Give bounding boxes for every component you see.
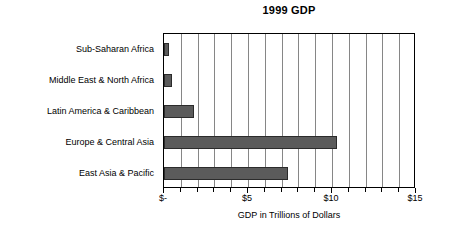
bar-slot [164,103,414,121]
bar [164,43,169,56]
x-tick-label: $15 [407,193,422,203]
x-tick-label: $10 [323,193,338,203]
x-tick-label: $- [159,193,167,203]
bar-slot [164,165,414,183]
axis-tick-minor [381,188,382,192]
bar [164,167,288,180]
axis-tick-minor [180,188,181,192]
category-axis-labels: Sub-Saharan AfricaMiddle East & North Af… [0,33,159,188]
plot-area [163,33,415,188]
axis-tick-minor [281,188,282,192]
x-axis-title: GDP in Trillions of Dollars [163,210,415,220]
axis-tick-minor [348,188,349,192]
axis-tick-minor [297,188,298,192]
category-label: East Asia & Pacific [79,168,154,178]
category-label: Middle East & North Africa [49,75,154,85]
gdp-bar-chart: 1999 GDP Sub-Saharan AfricaMiddle East &… [0,0,452,234]
axis-tick-minor [230,188,231,192]
axis-tick-minor [314,188,315,192]
x-axis-tick-labels: $-$5$10$15 [163,193,415,207]
category-label: Latin America & Caribbean [47,106,154,116]
axis-tick-minor [213,188,214,192]
bar-slot [164,72,414,90]
category-label: Sub-Saharan Africa [76,44,154,54]
bar-slot [164,41,414,59]
x-tick-label: $5 [242,193,252,203]
bar-slot [164,134,414,152]
bars-layer [164,34,414,187]
axis-tick-minor [365,188,366,192]
axis-tick-minor [264,188,265,192]
bar [164,136,337,149]
bar [164,74,172,87]
bar [164,105,194,118]
chart-title: 1999 GDP [163,4,415,16]
category-label: Europe & Central Asia [65,137,154,147]
axis-tick-minor [398,188,399,192]
axis-tick-minor [197,188,198,192]
